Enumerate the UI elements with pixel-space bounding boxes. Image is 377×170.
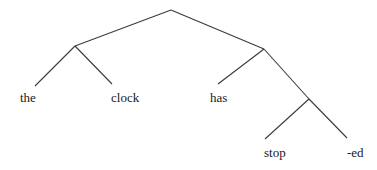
leaf-ed: -ed [347, 145, 364, 160]
edge-lower-stop [265, 99, 309, 139]
edge-right-has [218, 49, 264, 84]
edge-left-the [35, 46, 75, 86]
syntax-tree-diagram: the clock has stop -ed [0, 0, 377, 170]
leaf-the: the [20, 90, 36, 105]
edge-lower-ed [309, 99, 347, 138]
edge-right-lower [264, 49, 309, 99]
leaf-has: has [210, 90, 227, 105]
edge-left-clock [75, 46, 112, 84]
edge-root-right [171, 10, 264, 49]
leaf-stop: stop [264, 145, 286, 160]
edge-root-left [75, 10, 171, 46]
leaf-clock: clock [111, 90, 140, 105]
